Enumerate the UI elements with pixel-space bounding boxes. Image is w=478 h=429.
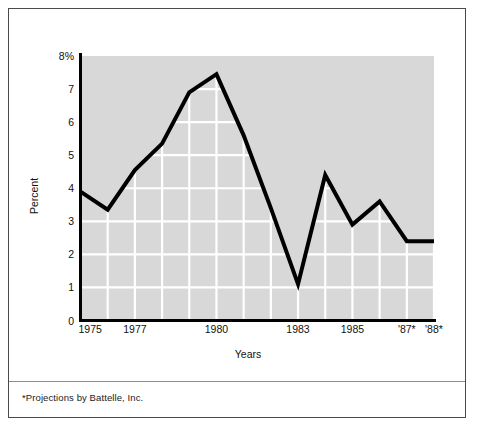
y-tick-label: 2	[68, 248, 74, 260]
x-tick-label: 1980	[205, 323, 229, 335]
y-tick-label: 0	[68, 315, 74, 327]
y-tick-label: 5	[68, 149, 74, 161]
x-tick-label: 1983	[286, 323, 310, 335]
y-tick-label: 8%	[59, 50, 74, 62]
chart-figure: 012345678% 19751977198019831985'87*'88* …	[0, 0, 478, 429]
x-tick-label: 1975	[79, 323, 103, 335]
x-tick-label: 1985	[341, 323, 365, 335]
y-tick-label: 6	[68, 116, 74, 128]
y-tick-label: 1	[68, 281, 74, 293]
y-tick-label: 4	[68, 182, 74, 194]
x-tick-label: 1977	[123, 323, 147, 335]
footnote-text: *Projections by Battelle, Inc.	[22, 392, 143, 403]
x-axis-title: Years	[235, 348, 261, 360]
x-axis-tick-labels: 19751977198019831985'87*'88*	[79, 323, 443, 335]
x-tick-label: '88*	[425, 323, 443, 335]
y-tick-label: 3	[68, 215, 74, 227]
line-chart: 012345678% 19751977198019831985'87*'88* …	[0, 0, 478, 429]
footnote-divider	[9, 381, 465, 382]
y-axis-title: Percent	[28, 178, 40, 214]
y-axis-tick-labels: 012345678%	[59, 50, 74, 327]
y-tick-label: 7	[68, 83, 74, 95]
x-tick-label: '87*	[398, 323, 416, 335]
